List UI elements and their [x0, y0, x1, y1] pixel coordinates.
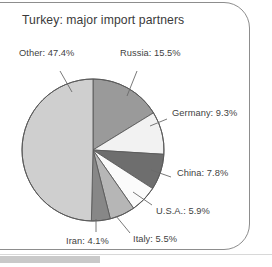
pie-label-italy: Italy: 5.5%: [133, 234, 177, 244]
footer-bar: [0, 256, 100, 263]
pie-label-china: China: 7.8%: [177, 168, 228, 178]
pie-label-usa: U.S.A.: 5.9%: [156, 206, 210, 216]
pie-label-other: Other: 47.4%: [19, 48, 74, 58]
footer-rule: [0, 254, 272, 255]
pie-label-russia: Russia: 15.5%: [120, 48, 181, 58]
pie-chart: Other: 47.4% Russia: 15.5% Germany: 9.3%…: [0, 0, 272, 267]
pie-slice-other: [22, 79, 93, 221]
pie-label-iran: Iran: 4.1%: [66, 236, 109, 246]
pie-slice-group: [22, 79, 164, 221]
pie-chart-svg: [0, 0, 272, 267]
leader-line-italy: [116, 216, 130, 233]
pie-label-germany: Germany: 9.3%: [172, 108, 237, 118]
page-root: Turkey: major import partners Other: 47.…: [0, 0, 272, 267]
